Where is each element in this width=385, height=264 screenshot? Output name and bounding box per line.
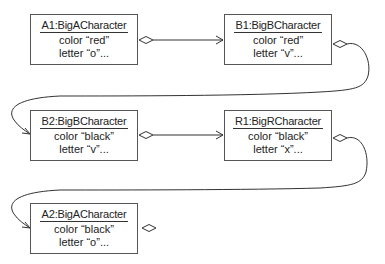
object-a1: A1:BigACharacter color “red” letter “o”.… bbox=[30, 14, 138, 65]
object-letter-attr: letter “o”... bbox=[31, 236, 137, 249]
object-name: A1:BigACharacter bbox=[40, 19, 129, 33]
object-b2: B2:BigBCharacter color “black” letter “v… bbox=[30, 110, 138, 161]
object-color-attr: color “red” bbox=[31, 34, 137, 47]
object-name: B2:BigBCharacter bbox=[40, 115, 129, 129]
object-letter-attr: letter “v”... bbox=[31, 143, 137, 156]
aggregation-diamond-icon bbox=[139, 132, 153, 139]
aggregation-diamond-icon bbox=[333, 41, 347, 48]
link-a1-b1 bbox=[139, 36, 223, 44]
object-a2: A2:BigACharacter color “black” letter “o… bbox=[30, 203, 138, 254]
object-letter-attr: letter “v”... bbox=[225, 47, 331, 60]
link-a2-next bbox=[142, 225, 156, 232]
object-b1: B1:BigBCharacter color “red” letter “v”.… bbox=[224, 14, 332, 65]
aggregation-diamond-icon bbox=[139, 37, 153, 44]
object-color-attr: color “red” bbox=[225, 34, 331, 47]
object-name: R1:BigRCharacter bbox=[233, 115, 323, 129]
aggregation-diamond-icon bbox=[333, 135, 347, 142]
object-diagram: A1:BigACharacter color “red” letter “o”.… bbox=[0, 0, 385, 264]
object-r1: R1:BigRCharacter color “black” letter “x… bbox=[224, 110, 332, 161]
object-letter-attr: letter “o”... bbox=[31, 47, 137, 60]
link-b2-r1 bbox=[139, 131, 223, 139]
object-name: A2:BigACharacter bbox=[40, 208, 129, 222]
aggregation-diamond-icon bbox=[142, 225, 156, 232]
object-letter-attr: letter “x”... bbox=[225, 143, 331, 156]
object-name: B1:BigBCharacter bbox=[234, 19, 323, 33]
object-color-attr: color “black” bbox=[225, 130, 331, 143]
object-color-attr: color “black” bbox=[31, 223, 137, 236]
object-color-attr: color “black” bbox=[31, 130, 137, 143]
